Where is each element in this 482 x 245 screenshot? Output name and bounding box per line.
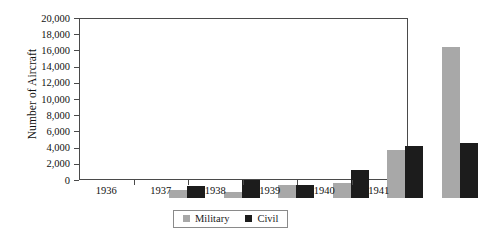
legend-item-civil: Civil — [245, 213, 278, 224]
legend-swatch-military — [183, 215, 190, 222]
x-axis-tick-mark — [188, 180, 189, 185]
legend-label: Military — [195, 213, 229, 224]
x-axis-tick-mark — [352, 180, 353, 185]
x-axis-label-1939: 1939 — [243, 185, 298, 196]
y-axis-tick-label: 18,000 — [41, 27, 70, 42]
y-axis-tick-label: 4,000 — [46, 140, 70, 155]
x-axis-label-1936: 1936 — [79, 185, 134, 196]
y-axis-ticks: 02,0004,0006,0008,00010,00012,00014,0001… — [0, 18, 79, 180]
legend-item-military: Military — [183, 213, 229, 224]
bar-military-1941 — [442, 47, 460, 198]
legend-swatch-civil — [245, 215, 252, 222]
x-axis-tick-mark — [297, 180, 298, 185]
chart-legend: MilitaryCivil — [173, 210, 288, 228]
legend-label: Civil — [257, 213, 278, 224]
x-axis-tick-mark — [243, 180, 244, 185]
y-axis-tick-label: 14,000 — [41, 59, 70, 74]
bars-layer — [160, 38, 482, 198]
y-axis-tick-label: 12,000 — [41, 75, 70, 90]
y-axis-tick-label: 20,000 — [41, 11, 70, 26]
x-axis-label-1940: 1940 — [297, 185, 352, 196]
x-axis-label-1938: 1938 — [188, 185, 243, 196]
y-axis-tick-label: 6,000 — [46, 124, 70, 139]
y-axis-tick-label: 8,000 — [46, 108, 70, 123]
plot-area — [79, 18, 408, 180]
x-axis-label-1941: 1941 — [352, 185, 407, 196]
y-axis-tick-label: 16,000 — [41, 43, 70, 58]
bar-civil-1941 — [460, 143, 478, 198]
x-axis-label-1937: 1937 — [134, 185, 189, 196]
y-axis-tick-label: 0 — [65, 173, 70, 188]
x-axis-ticks: 193619371938193919401941 — [79, 180, 408, 200]
x-axis-tick-mark — [134, 180, 135, 185]
y-axis-tick-label: 10,000 — [41, 92, 70, 107]
y-axis-tick-label: 2,000 — [46, 156, 70, 171]
